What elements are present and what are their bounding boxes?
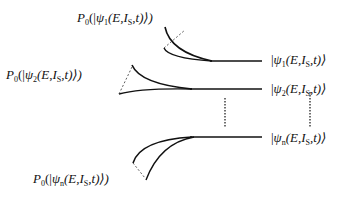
state-label-n: |ψn(E,IS,t)⟩ — [271, 131, 326, 147]
diagram-canvas — [0, 0, 363, 199]
state-label-2: |ψ2(E,IS,t)⟩ — [271, 82, 326, 98]
branch-n — [133, 137, 262, 180]
branch-2 — [119, 65, 262, 94]
projection-label-1: P0(|ψ1(E,IS,t)⟩) — [77, 11, 153, 27]
projection-label-2: P0(|ψ2(E,IS,t)⟩) — [6, 68, 82, 84]
branch-1 — [164, 27, 262, 61]
state-label-1: |ψ1(E,IS,t)⟩ — [271, 53, 326, 69]
projection-label-n: P0(|ψn(E,IS,t)⟩) — [33, 172, 109, 188]
